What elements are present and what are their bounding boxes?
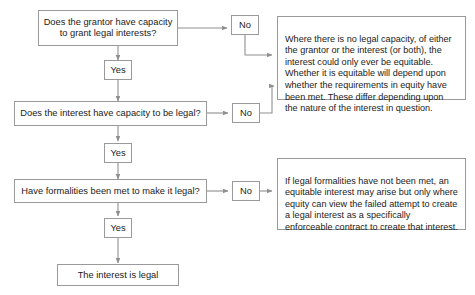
decision-yes-2[interactable]: Yes bbox=[104, 143, 132, 163]
decision-no-3[interactable]: No bbox=[232, 181, 260, 201]
flowchart-canvas: Does the grantor have capacity to grant … bbox=[0, 0, 475, 295]
question-3-label: Have formalities been met to make it leg… bbox=[21, 186, 199, 197]
yes-1-label: Yes bbox=[110, 65, 125, 76]
decision-yes-1[interactable]: Yes bbox=[104, 60, 132, 80]
note-capacity-text: Where there is no legal capacity, of eit… bbox=[285, 34, 452, 114]
question-1-label: Does the grantor have capacity to grant … bbox=[44, 17, 173, 39]
terminal-box-interest-is-legal[interactable]: The interest is legal bbox=[57, 264, 179, 286]
decision-no-2[interactable]: No bbox=[232, 103, 260, 123]
decision-no-1[interactable]: No bbox=[231, 15, 259, 35]
note-box-formalities: If legal formalities have not been met, … bbox=[277, 158, 466, 230]
no-2-label: No bbox=[240, 108, 252, 119]
question-box-grantor-capacity[interactable]: Does the grantor have capacity to grant … bbox=[38, 10, 178, 46]
yes-3-label: Yes bbox=[110, 223, 125, 234]
yes-2-label: Yes bbox=[110, 148, 125, 159]
terminal-label: The interest is legal bbox=[78, 270, 159, 281]
question-box-interest-capacity[interactable]: Does the interest have capacity to be le… bbox=[14, 101, 207, 126]
decision-yes-3[interactable]: Yes bbox=[104, 218, 132, 238]
no-3-label: No bbox=[240, 186, 252, 197]
note-formalities-text: If legal formalities have not been met, … bbox=[285, 176, 458, 232]
question-box-formalities[interactable]: Have formalities been met to make it leg… bbox=[14, 179, 207, 203]
no-1-label: No bbox=[239, 20, 251, 31]
question-2-label: Does the interest have capacity to be le… bbox=[20, 108, 200, 119]
note-box-capacity: Where there is no legal capacity, of eit… bbox=[277, 16, 466, 100]
